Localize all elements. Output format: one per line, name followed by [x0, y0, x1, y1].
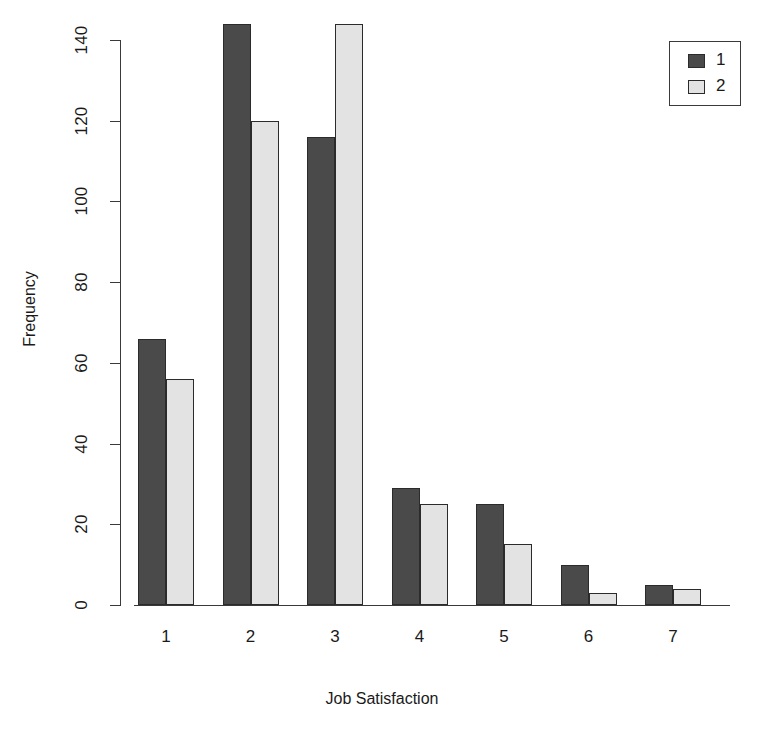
legend: 1 2: [669, 41, 741, 106]
bar: [335, 24, 363, 605]
y-axis-tick-label-text: 0: [72, 583, 92, 627]
bar: [251, 121, 279, 605]
x-axis-line: [134, 605, 730, 606]
y-axis-tick: [110, 444, 121, 445]
y-axis-tick: [110, 282, 121, 283]
y-axis-tick-label-text: 60: [72, 341, 92, 385]
bar: [307, 137, 335, 605]
y-axis-tick-label: 40: [58, 433, 104, 455]
y-axis-cap: [110, 40, 121, 41]
bar-chart: 020406080100120140 1234567 Job Satisfact…: [0, 0, 764, 734]
y-axis-tick-label: 140: [58, 29, 104, 51]
y-axis-tick-label-text: 40: [72, 422, 92, 466]
y-axis-tick-label: 60: [58, 352, 104, 374]
y-axis-tick-label: 0: [58, 594, 104, 616]
x-axis-tick-label: 2: [211, 627, 291, 647]
x-axis-tick-label: 3: [295, 627, 375, 647]
x-axis-tick-label: 5: [464, 627, 544, 647]
plot-area: 020406080100120140 1234567 Job Satisfact…: [0, 0, 764, 734]
y-axis-tick-label-text: 20: [72, 502, 92, 546]
bar: [673, 589, 701, 605]
y-axis-tick: [110, 121, 121, 122]
y-axis-tick-label: 120: [58, 110, 104, 132]
x-axis-tick-label: 6: [549, 627, 629, 647]
legend-label-series-1: 1: [716, 53, 725, 67]
bar: [589, 593, 617, 605]
x-axis-tick-label: 1: [126, 627, 206, 647]
bar: [392, 488, 420, 605]
y-axis-line: [120, 40, 121, 606]
legend-label-series-2: 2: [716, 79, 725, 93]
y-axis-title: Frequency: [21, 249, 39, 369]
bar: [223, 24, 251, 605]
x-axis-title: Job Satisfaction: [0, 690, 764, 708]
y-axis-tick-label: 100: [58, 190, 104, 212]
bar: [166, 379, 194, 605]
bar: [420, 504, 448, 605]
y-axis-tick-label-text: 140: [72, 18, 92, 62]
y-axis-tick-label-text: 100: [72, 179, 92, 223]
x-axis-tick-label: 4: [380, 627, 460, 647]
y-axis-tick-label: 20: [58, 513, 104, 535]
y-axis-tick-label: 80: [58, 271, 104, 293]
bar: [504, 544, 532, 605]
bar: [476, 504, 504, 605]
bar: [645, 585, 673, 605]
y-axis-tick-label-text: 80: [72, 260, 92, 304]
y-axis-tick-label-text: 120: [72, 99, 92, 143]
y-axis-tick: [110, 201, 121, 202]
y-axis-cap: [110, 605, 121, 606]
bar: [561, 565, 589, 605]
y-axis-tick: [110, 524, 121, 525]
legend-swatch-series-2: [688, 80, 705, 94]
y-axis-tick: [110, 363, 121, 364]
legend-swatch-series-1: [688, 54, 705, 68]
bar: [138, 339, 166, 605]
x-axis-tick-label: 7: [633, 627, 713, 647]
